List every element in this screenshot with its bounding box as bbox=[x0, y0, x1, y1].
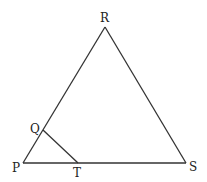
segment-PR bbox=[23, 27, 105, 163]
segment-QT bbox=[43, 130, 78, 163]
diagram-svg: R Q P T S bbox=[0, 0, 207, 182]
label-R: R bbox=[100, 11, 110, 25]
triangle-diagram: R Q P T S bbox=[0, 0, 207, 182]
label-T: T bbox=[73, 166, 81, 180]
segment-RS bbox=[105, 27, 186, 163]
label-P: P bbox=[12, 161, 20, 175]
label-S: S bbox=[189, 160, 197, 174]
label-Q: Q bbox=[30, 122, 40, 136]
